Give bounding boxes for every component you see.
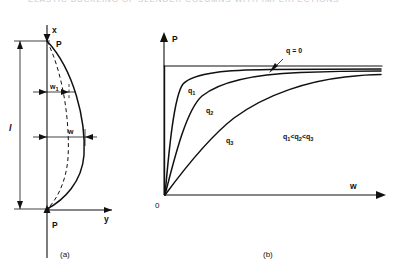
x-axis-label: x	[52, 25, 57, 35]
w1-arrow-right	[61, 89, 69, 95]
w1-arrow-left	[39, 89, 47, 95]
y-axis-arrowhead	[104, 207, 112, 213]
w-arrow-right	[85, 134, 93, 140]
w-axis-label: w	[349, 181, 357, 191]
panel-a-caption: (a)	[60, 250, 70, 259]
curve-label-q2: q2	[206, 107, 213, 116]
w1-label: w1	[49, 83, 59, 92]
origin-label: 0	[155, 201, 160, 210]
w-arrow-left	[39, 134, 47, 140]
series-q2-curve	[165, 71, 381, 195]
length-arrow-top	[17, 41, 23, 49]
y-axis-label: y	[104, 214, 109, 224]
inequality-annotation: q1<q2<q3	[283, 133, 313, 142]
panel-a-diagram: x P P y l w1 w (a)	[0, 0, 150, 275]
panel-b-caption: (b)	[263, 250, 273, 259]
length-label: l	[9, 123, 12, 133]
q0-pointer-arrowhead	[269, 63, 278, 73]
series-q1-curve	[165, 69, 381, 195]
series-q3-curve	[165, 75, 381, 196]
deflection-curve-outer	[47, 41, 84, 209]
curve-label-q1: q1	[188, 87, 195, 96]
length-arrow-bottom	[17, 201, 23, 209]
bottom-load-label: P	[52, 220, 58, 230]
p-axis-label: P	[172, 34, 178, 44]
curve-label-q3: q3	[226, 137, 233, 146]
top-load-label: P	[56, 39, 62, 49]
panel-b-chart: P w PC 0 q = 0 q1 q2 q3 q1<q2<q3 (b)	[150, 0, 400, 275]
p-axis-arrowhead	[160, 32, 168, 42]
w-label: w	[67, 128, 74, 135]
w-axis-arrowhead	[376, 191, 386, 199]
figure-container: ELASTIC BUCKLING OF SLENDER COLUMNS WITH…	[0, 0, 400, 275]
q0-annotation-label: q = 0	[286, 47, 302, 55]
